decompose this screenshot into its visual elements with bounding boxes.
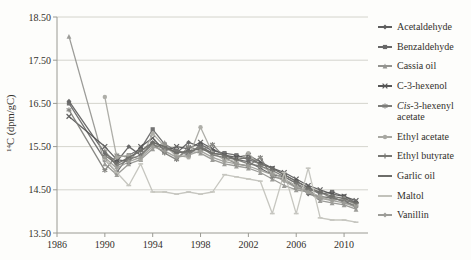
series-line	[69, 36, 356, 209]
circle-marker-icon	[246, 151, 250, 155]
x-tick-label: 2010	[334, 239, 354, 250]
legend-key-icon	[377, 172, 393, 180]
x-tick-label: 1986	[47, 239, 67, 250]
legend-key-icon	[377, 43, 393, 51]
legend-key-icon	[377, 82, 393, 90]
legend-label: C-3-hexenol	[397, 80, 470, 91]
legend-label: Cassia oil	[397, 60, 470, 71]
legend-item-ethyl-acetate: Ethyl acetate	[377, 131, 470, 142]
legend-key-icon	[377, 192, 393, 200]
chart-plot-area: 13.5014.5015.5016.5017.5018.501986199019…	[0, 0, 375, 260]
circle-marker-icon	[103, 95, 107, 99]
legend-key-icon	[377, 211, 393, 219]
legend-item-garlic-oil: Garlic oil	[377, 170, 470, 181]
circle-marker-icon	[383, 134, 387, 138]
y-tick-label: 16.50	[29, 98, 52, 109]
legend-key-icon	[377, 133, 393, 141]
x-tick-label: 1990	[95, 239, 115, 250]
legend-item-cassia-oil: Cassia oil	[377, 60, 470, 71]
legend-label: Acetaldehyde	[397, 21, 470, 32]
legend-label: Garlic oil	[397, 170, 470, 181]
legend-item-vanillin: Vanillin	[377, 209, 470, 220]
legend-item-benzaldehyde: Benzaldehyde	[377, 41, 470, 52]
x-tick-label: 1998	[191, 239, 211, 250]
y-axis-title: 14C (dpm/gC)	[5, 94, 17, 152]
y-tick-label: 15.50	[29, 141, 52, 152]
legend-key-icon	[377, 23, 393, 31]
x-tick-label: 2002	[238, 239, 258, 250]
legend-item-acetaldehyde: Acetaldehyde	[377, 21, 470, 32]
circle-marker-icon	[198, 125, 202, 129]
square-marker-icon	[151, 127, 155, 131]
legend-label: Ethyl acetate	[397, 131, 470, 142]
legend-label: Benzaldehyde	[397, 41, 470, 52]
y-tick-label: 13.50	[29, 228, 52, 239]
square-marker-icon	[383, 45, 387, 49]
legend-label: Cis-3-hexenyl acetate	[397, 100, 470, 122]
legend-item-ethyl-butyrate: Ethyl butyrate	[377, 150, 470, 161]
carbon14-line-chart-figure: 13.5014.5015.5016.5017.5018.501986199019…	[0, 0, 471, 260]
y-tick-label: 18.50	[29, 12, 52, 23]
y-tick-label: 17.50	[29, 55, 52, 66]
legend-key-icon	[377, 62, 393, 70]
legend-item-c-3-hexenol: C-3-hexenol	[377, 80, 470, 91]
legend-label: Maltol	[397, 190, 470, 201]
legend-label: Vanillin	[397, 209, 470, 220]
legend-item-cis-3-hexenyl-acetate: Cis-3-hexenyl acetate	[377, 100, 470, 122]
legend-key-icon	[377, 102, 393, 110]
legend-item-maltol: Maltol	[377, 190, 470, 201]
circle-marker-icon	[115, 155, 119, 159]
x-tick-label: 1994	[143, 239, 163, 250]
diamond-marker-icon	[383, 213, 388, 218]
chart-legend: AcetaldehydeBenzaldehydeCassia oilC-3-he…	[377, 21, 470, 229]
legend-key-icon	[377, 152, 393, 160]
legend-label: Ethyl butyrate	[397, 150, 470, 161]
x-tick-label: 2006	[286, 239, 306, 250]
circle-marker-icon	[150, 131, 154, 135]
diamond-marker-icon	[383, 25, 388, 30]
y-tick-label: 14.50	[29, 184, 52, 195]
triangle-marker-icon	[67, 34, 72, 39]
square-marker-icon	[67, 101, 71, 105]
